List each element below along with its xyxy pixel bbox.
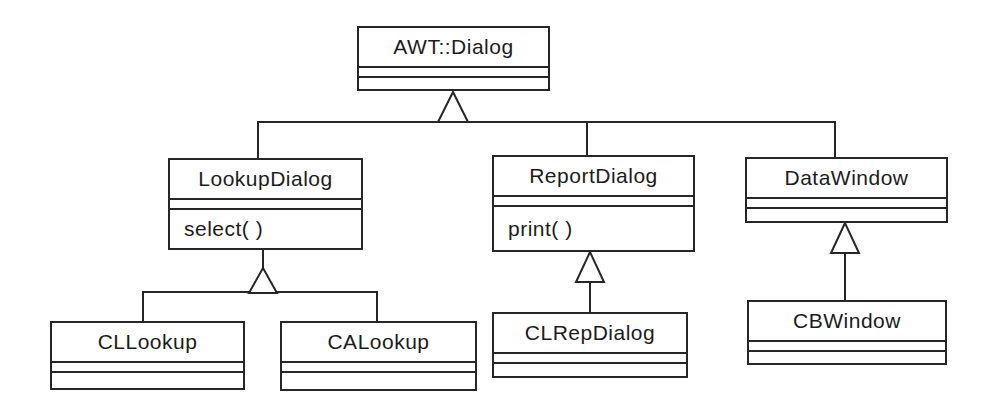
operations-compartment: select( )	[170, 210, 361, 248]
uml-class-diagram: AWT::Dialog LookupDialog select( ) Repor…	[0, 0, 992, 412]
operations-compartment	[749, 352, 945, 363]
class-name: CBWindow	[749, 302, 945, 340]
class-name: CLLookup	[52, 323, 243, 361]
operations-compartment: print( )	[494, 207, 693, 250]
connector-awt-bus	[258, 122, 835, 158]
class-box-cl-lookup: CLLookup	[50, 321, 245, 390]
class-name: CALookup	[282, 323, 475, 361]
operations-compartment	[494, 364, 686, 376]
class-name: CLRepDialog	[494, 314, 686, 352]
attributes-compartment	[494, 195, 693, 207]
operations-compartment	[747, 209, 946, 221]
attributes-compartment	[747, 197, 946, 209]
class-name: LookupDialog	[170, 160, 361, 198]
attributes-compartment	[170, 198, 361, 210]
attributes-compartment	[494, 352, 686, 364]
class-box-report-dialog: ReportDialog print( )	[492, 155, 695, 252]
attributes-compartment	[52, 361, 243, 373]
attributes-compartment	[282, 361, 475, 373]
class-box-ca-lookup: CALookup	[280, 321, 477, 391]
connector-lookup-bus	[143, 292, 377, 321]
class-box-awt-dialog: AWT::Dialog	[357, 26, 550, 91]
operations-compartment	[359, 78, 548, 89]
class-box-data-window: DataWindow	[745, 157, 948, 223]
attributes-compartment	[749, 340, 945, 352]
class-name: ReportDialog	[494, 157, 693, 195]
attributes-compartment	[359, 66, 548, 78]
class-box-cb-window: CBWindow	[747, 300, 947, 365]
generalization-triangle-lookup	[249, 268, 277, 293]
class-box-lookup-dialog: LookupDialog select( )	[168, 158, 363, 250]
class-box-cl-rep-dialog: CLRepDialog	[492, 312, 688, 378]
generalization-triangle-report	[576, 252, 604, 282]
class-name: AWT::Dialog	[359, 28, 548, 66]
generalization-triangle-datawindow	[831, 223, 859, 253]
class-name: DataWindow	[747, 159, 946, 197]
operations-compartment	[52, 373, 243, 388]
operations-compartment	[282, 373, 475, 389]
generalization-triangle-awt	[438, 92, 468, 122]
